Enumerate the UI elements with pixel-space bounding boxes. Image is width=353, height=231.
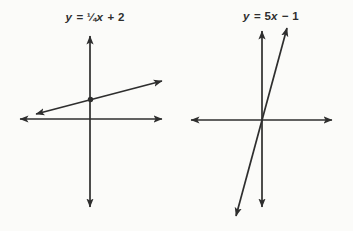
figure-svg bbox=[0, 0, 353, 231]
function-line bbox=[36, 81, 162, 114]
figure: y = ¼x + 2 y = 5x − 1 bbox=[0, 0, 353, 231]
y-intercept-dot bbox=[88, 97, 93, 102]
right-graph bbox=[191, 28, 332, 216]
left-graph bbox=[20, 36, 162, 207]
